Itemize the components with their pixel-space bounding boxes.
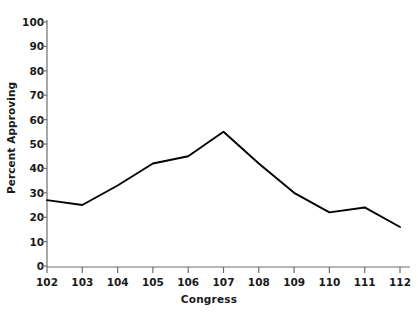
x-axis-tick-label: 110	[318, 276, 340, 288]
x-axis-tick-label: 105	[142, 276, 164, 288]
x-axis-tick-label: 107	[213, 276, 235, 288]
x-axis-tick-label: 102	[36, 276, 58, 288]
x-axis-tick-labels: 102103104105106107108109110111112	[0, 0, 418, 313]
x-axis-tick-label: 106	[177, 276, 199, 288]
x-axis-tick-label: 104	[107, 276, 129, 288]
x-axis-tick-label: 108	[248, 276, 270, 288]
x-axis-tick-label: 111	[354, 276, 376, 288]
x-axis-tick-label: 103	[71, 276, 93, 288]
x-axis-title: Congress	[0, 293, 418, 305]
x-axis-tick-label: 112	[389, 276, 411, 288]
chart-container: Percent Approving 0102030405060708090100…	[0, 0, 418, 313]
x-axis-tick-label: 109	[283, 276, 305, 288]
